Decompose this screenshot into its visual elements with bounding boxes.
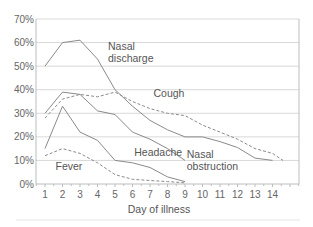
- x-tick-label: 4: [95, 189, 101, 200]
- annotations: NasaldischargeCoughHeadacheNasalobstruct…: [56, 40, 239, 172]
- x-tick-label: 13: [249, 189, 261, 200]
- x-tick-label: 1: [42, 189, 48, 200]
- symptom-duration-chart: 0%10%20%30%40%50%60%70%12345678910111213…: [0, 0, 313, 227]
- x-tick-label: 9: [182, 189, 188, 200]
- x-axis-title: Day of illness: [128, 203, 190, 215]
- y-tick-label: 50%: [14, 61, 34, 72]
- annotation-fever: Fever: [56, 160, 83, 172]
- x-tick-label: 11: [215, 189, 226, 200]
- x-tick-label: 8: [165, 189, 171, 200]
- x-tick-label: 14: [267, 189, 279, 200]
- series-line-nasal-discharge: [45, 40, 273, 160]
- y-tick-label: 30%: [14, 108, 34, 119]
- annotation-headache: Headache: [134, 146, 182, 158]
- annotation-nasal-obstruction: Nasalobstruction: [187, 148, 239, 172]
- y-tick-label: 70%: [14, 14, 34, 25]
- x-tick-label: 7: [147, 189, 153, 200]
- y-tick-label: 10%: [14, 155, 34, 166]
- annotation-cough: Cough: [154, 87, 185, 99]
- y-tick-label: 0%: [20, 179, 35, 190]
- x-tick-label: 6: [130, 189, 136, 200]
- x-tick-label: 10: [197, 189, 209, 200]
- x-tick-label: 5: [112, 189, 118, 200]
- y-tick-label: 20%: [14, 131, 34, 142]
- axes: 0%10%20%30%40%50%60%70%12345678910111213…: [14, 14, 299, 201]
- x-tick-label: 2: [60, 189, 66, 200]
- annotation-nasal-discharge: Nasaldischarge: [108, 40, 154, 64]
- x-tick-label: 3: [77, 189, 83, 200]
- y-tick-label: 40%: [14, 84, 34, 95]
- y-tick-label: 60%: [14, 37, 34, 48]
- x-tick-label: 12: [232, 189, 244, 200]
